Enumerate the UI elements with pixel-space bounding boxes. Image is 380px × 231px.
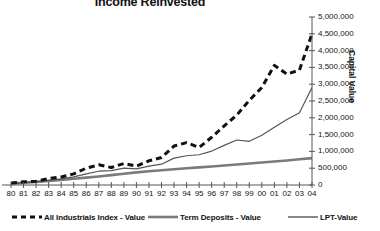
x-axis-tick-label: 97	[220, 190, 229, 198]
y-axis-tick-label: 0	[318, 181, 322, 189]
legend-swatch-solid-thin	[288, 212, 318, 222]
x-axis-tick-label: 89	[119, 190, 128, 198]
y-axis-tick-label: 4,500,000	[318, 30, 354, 38]
x-axis-tick-label: 92	[157, 190, 166, 198]
x-axis-tick-label: 96	[207, 190, 216, 198]
x-axis-tick-label: 04	[308, 190, 317, 198]
x-axis-tick-label: 81	[19, 190, 28, 198]
y-axis-tick-label: 5,000,000	[318, 13, 354, 21]
x-axis-tick-label: 02	[282, 190, 291, 198]
series-line	[11, 34, 312, 183]
y-axis-tick-label: 1,500,000	[318, 131, 354, 139]
x-axis-tick-label: 93	[170, 190, 179, 198]
chart-figure: Income Reinvested 0500,0001,000,0001,500…	[0, 0, 380, 231]
legend-item-all-industrials-index: All Industrials Index - Value	[12, 210, 145, 224]
x-axis-tick-label: 88	[107, 190, 116, 198]
x-axis-tick-label: 83	[44, 190, 53, 198]
x-axis-tick-label: 01	[270, 190, 279, 198]
series-group	[11, 34, 312, 184]
x-axis-tick-label: 87	[94, 190, 103, 198]
legend-swatch-dashed	[12, 212, 42, 222]
x-axis-tick-label: 00	[257, 190, 266, 198]
x-axis-tick-label: 90	[132, 190, 141, 198]
x-axis-tick-label: 98	[232, 190, 241, 198]
y-axis-tick-label: 1,000,000	[318, 147, 354, 155]
x-axis-tick-label: 82	[32, 190, 41, 198]
x-axis-tick-label: 85	[69, 190, 78, 198]
legend-item-term-deposits: Term Deposits - Value	[148, 210, 261, 224]
x-axis-tick-label: 03	[295, 190, 304, 198]
legend-item-lpt-value: LPT-Value	[288, 210, 357, 224]
legend-swatch-solid-gray	[148, 212, 178, 222]
legend-label: All Industrials Index - Value	[44, 213, 145, 222]
x-axis-tick-label: 94	[182, 190, 191, 198]
legend-label: Term Deposits - Value	[180, 213, 261, 222]
y-axis-title: Capital Value	[347, 50, 357, 130]
plot-area: 0500,0001,000,0001,500,0002,000,0002,500…	[0, 0, 380, 205]
x-axis-tick-label: 91	[145, 190, 154, 198]
x-axis-tick-label: 80	[7, 190, 16, 198]
x-axis-tick-label: 86	[82, 190, 91, 198]
legend-label: LPT-Value	[320, 213, 357, 222]
x-axis-tick-label: 99	[245, 190, 254, 198]
y-axis-tick-label: 500,000	[318, 164, 347, 172]
x-axis-tick-label: 84	[57, 190, 66, 198]
chart-legend: All Industrials Index - Value Term Depos…	[0, 210, 380, 230]
x-axis-tick-label: 95	[195, 190, 204, 198]
